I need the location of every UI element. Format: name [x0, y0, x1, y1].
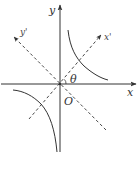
- y-axis-label: y: [48, 4, 56, 17]
- x-axis-label: x: [127, 86, 134, 99]
- angle-arc: [65, 80, 67, 85]
- hyperbola-branch-lower: [13, 90, 57, 152]
- hyperbola-diagram: y x x' y' θ O: [0, 0, 140, 173]
- angle-label: θ: [70, 73, 77, 86]
- origin-point: [59, 83, 61, 85]
- origin-label: O: [64, 95, 73, 108]
- y-prime-label: y': [19, 27, 28, 37]
- x-prime-label: x': [104, 32, 112, 42]
